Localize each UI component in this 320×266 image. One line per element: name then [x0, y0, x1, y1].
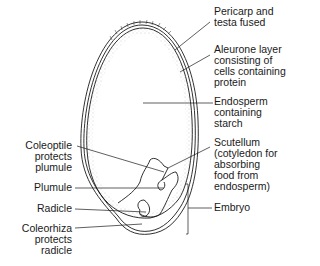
- label-plumule: Plumule: [34, 182, 72, 193]
- label-endosperm: Endosperm containing starch: [214, 96, 268, 129]
- label-scutellum: Scutellum (cotyledon for absorbing food …: [214, 137, 278, 192]
- label-radicle: Radicle: [37, 203, 72, 214]
- label-coleoptile: Coleoptile protects plumule: [25, 140, 72, 173]
- label-embryo: Embryo: [214, 202, 250, 213]
- label-coleorhiza: Coleorhiza protects radicle: [22, 223, 72, 256]
- label-pericarp: Pericarp and testa fused: [214, 6, 274, 28]
- label-aleurone: Aleurone layer consisting of cells conta…: [214, 44, 286, 88]
- seed-coat: [81, 22, 198, 234]
